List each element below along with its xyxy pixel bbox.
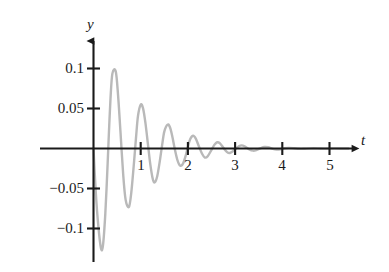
x-tick-label-5: 5 (320, 158, 340, 173)
y-tick-label-neg0.1: −0.1 (18, 221, 84, 236)
y-tick-label-0.1: 0.1 (26, 61, 84, 76)
x-tick-label-1: 1 (131, 158, 151, 173)
x-tick-label-4: 4 (272, 158, 292, 173)
x-tick-label-2: 2 (178, 158, 198, 173)
y-tick-label-0.05: 0.05 (26, 101, 84, 116)
y-tick-label-neg0.05: −0.05 (18, 181, 84, 196)
x-tick-label-3: 3 (225, 158, 245, 173)
chart-figure: 0.1 0.05 −0.05 −0.1 1 2 3 4 5 y t (0, 0, 389, 272)
y-axis-label: y (87, 17, 94, 32)
x-axis-label: t (361, 133, 365, 148)
